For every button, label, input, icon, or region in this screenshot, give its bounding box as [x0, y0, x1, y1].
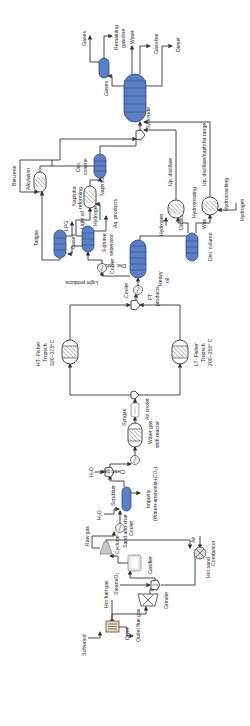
dist-column-3-label-1: Dist. [75, 162, 81, 172]
lt-ft-label-2: Tropsch [200, 343, 206, 362]
dist-column-2-label: Dist. column [207, 232, 213, 261]
lt-ft-label-1: LT- Fisher [193, 343, 199, 366]
lt-ft-temp: 200~250° C [207, 338, 213, 366]
up-distillate-stream: Up. distillate [144, 130, 176, 200]
naphtha-label: Naphtha [99, 176, 105, 196]
softwood-label: Softwood [81, 634, 87, 656]
heavy-oil-label-1: Heavy [157, 271, 163, 286]
cyclone-icon [100, 542, 112, 554]
gasifier-to-cyclone-stream [110, 556, 128, 563]
steam-o2-label: Steam/O₂ [113, 573, 119, 595]
lt-to-merge-stream [140, 305, 180, 340]
gases-top-column [99, 58, 109, 78]
cooler-to-separator-stream [88, 252, 102, 264]
hydrogen-hc-label: Hydrogen [239, 198, 245, 221]
alkylation-label: Alkylation [25, 168, 31, 190]
gases-stream-1: Gases [68, 234, 82, 254]
dist-column-2: Dist. column [186, 232, 213, 261]
wgs-reactor-unit: Water gas shift reactor [128, 420, 160, 448]
clean-gas-stream: Clean gas [101, 464, 131, 475]
air-cooler-unit: Air cooler [131, 398, 150, 420]
remaining-gasoline-stream: Remaining gasoline [104, 25, 126, 58]
tailgas-label: Tailgas [33, 229, 39, 246]
diesel-label: Diesel [175, 38, 181, 52]
light-products-stream: Light products [65, 272, 130, 286]
aq-products-label: Aq. products [112, 198, 118, 228]
remaining-gasoline-label-1: Remaining [113, 25, 119, 50]
cooler-1-label: Cooler [128, 520, 134, 536]
ht-ft-label-1: HT- Fisher [35, 342, 41, 366]
three-phase-separator: 3-phase seperator [82, 226, 114, 256]
alkylation-unit: Alkylation [25, 168, 46, 192]
hydrogen-ht-label: Hydrogen [158, 213, 164, 236]
syngas-label: Syngas [121, 408, 127, 426]
water-stream: Water [129, 30, 135, 74]
up-distillate-naphtha-label: Up. distillate/naphtha range [201, 123, 207, 186]
alkylation-to-column-stream [40, 160, 52, 172]
dist-column-icon [99, 58, 109, 78]
h2o-2-label: H₂O [88, 467, 94, 477]
impurity-stream: Impurity (Water+ammonia+CO₂) [131, 466, 158, 521]
final-column [124, 74, 146, 122]
light-cooler-unit: Cooler [98, 258, 116, 274]
ft-products-label-1: FT [147, 293, 153, 300]
grinder-label: Grinder [163, 591, 169, 609]
raw-gas-stream: Raw gas [84, 525, 114, 548]
gasifier-unit: Gasifier [128, 555, 153, 574]
impurity-detail-label: (Water+ammonia+CO₂) [152, 466, 158, 521]
diesel-stream: Diesel [146, 38, 181, 86]
air-cooler-label: Air cooler [144, 398, 150, 420]
h2o-in-stream-1: H₂O [96, 509, 119, 520]
splitter-to-ht-stream [70, 364, 131, 395]
water-label: Water [129, 30, 135, 44]
ft-products-label-2: products [154, 286, 160, 306]
gases-top-label: Gases [81, 31, 87, 46]
process-flow-diagram: Softwood Hot fuel gas Dryer Outlet flue … [0, 0, 250, 726]
ht-ft-reactor: HT- Fisher Tropsch 320~375°C [35, 340, 78, 366]
splitter-icon [131, 391, 139, 399]
feed-mixer [151, 580, 160, 590]
air-label: Air [190, 536, 196, 543]
hot-fuel-gas-label: Hot fuel gas [103, 580, 109, 608]
wgs-label-1: Water gas [147, 420, 153, 444]
ft-merge-mixer [131, 300, 140, 310]
separator-label-1: 3-phase [101, 233, 107, 252]
hydrotreating-label: Hydrotreating [191, 187, 197, 218]
h2o-in-stream-2: H₂O [88, 467, 104, 477]
light-oil-label: Light oil [79, 211, 85, 229]
up-distillate-naphtha-stream: Up. distillate/naphtha range [144, 122, 210, 197]
remaining-gasoline-label-2: gasoline [120, 29, 126, 48]
naphtha-reforming-unit: Naphtha reforming [71, 186, 96, 209]
combustor-label: Combustor [210, 540, 216, 566]
hydrogen-ht-stream: Hydrogen [158, 213, 166, 236]
column-to-syncrude-stream [100, 139, 136, 154]
splitter-to-lt-stream [139, 364, 180, 395]
separator-label-2: seperator [108, 234, 114, 256]
gasifier-label: Gasifier [147, 556, 153, 574]
outlet-flue-gas-stream: Outlet flue gas [119, 608, 141, 642]
wgs-label-2: shift reactor [154, 421, 160, 448]
air-stream: Air [190, 536, 200, 548]
heavy-oil-label-2: oil [164, 278, 170, 283]
outlet-flue-gas-label: Outlet flue gas [135, 608, 141, 642]
ht-to-merge-stream [70, 305, 130, 340]
diagram-canvas: Softwood Hot fuel gas Dryer Outlet flue … [0, 0, 250, 726]
ft-cooler-label: Cooler [123, 282, 129, 298]
light-cooler-label: Cooler [109, 258, 115, 274]
ht-ft-label-2: Tropsch [42, 343, 48, 362]
mixer-icon [136, 130, 145, 140]
wax-label: Wax [201, 218, 207, 229]
up-distillate-label: Up. distillate [167, 158, 173, 186]
dryer-unit: Dryer [106, 621, 130, 640]
cyclone-unit: Cyclone [100, 535, 120, 554]
lpg-column [54, 230, 66, 258]
dist-column-3-label-2: column [82, 158, 88, 175]
hydrotreating-unit: Hydrotreating [168, 187, 197, 218]
steam-o2-stream: Steam/O₂ [113, 573, 150, 595]
cooler-2-unit [131, 456, 140, 465]
scrubber-label: Scrubber [110, 485, 116, 506]
impurity-label: Impurity [145, 489, 151, 508]
h2o-1-label: H₂O [96, 510, 102, 520]
lt-ft-reactor: LT- Fisher Tropsch 200~250° C [172, 338, 213, 366]
raw-gas-label: Raw gas [84, 525, 90, 546]
